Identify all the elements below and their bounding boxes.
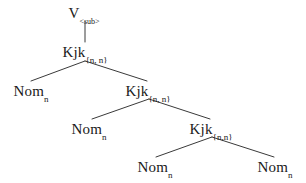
tree-node-nom-6: Nomn bbox=[137, 160, 172, 178]
node-label: Kjk bbox=[62, 44, 85, 60]
tree-edge-left-branch bbox=[31, 61, 85, 81]
tree-node-nom-4: Nomn bbox=[71, 122, 106, 140]
tree-edge-left-branch bbox=[156, 137, 212, 157]
node-subscript: {n,n} bbox=[213, 132, 233, 142]
node-label: Kjk bbox=[125, 83, 148, 99]
tree-node-kjk-3: Kjk{n, n} bbox=[125, 84, 170, 102]
node-label: Nom bbox=[257, 159, 288, 175]
node-label: Kjk bbox=[190, 121, 213, 137]
node-subscript: <sub> bbox=[79, 17, 99, 26]
tree-node-kjk-5: Kjk{n,n} bbox=[190, 122, 233, 140]
tree-node-v-0: V<sub> bbox=[68, 6, 99, 24]
node-subscript: n bbox=[168, 170, 173, 180]
node-label: Nom bbox=[13, 83, 44, 99]
tree-edge-left-branch bbox=[92, 99, 149, 119]
node-subscript: n bbox=[102, 132, 107, 142]
node-label: V bbox=[68, 5, 79, 21]
node-subscript: {n, n} bbox=[148, 94, 170, 104]
tree-node-nom-2: Nomn bbox=[13, 84, 48, 102]
node-subscript: {n, n} bbox=[85, 55, 107, 65]
node-label: Nom bbox=[137, 159, 168, 175]
node-subscript: n bbox=[288, 170, 293, 180]
tree-node-nom-7: Nomn bbox=[257, 160, 292, 178]
node-subscript: n bbox=[44, 94, 49, 104]
node-label: Nom bbox=[71, 121, 102, 137]
tree-node-kjk-1: Kjk{n, n} bbox=[62, 45, 107, 63]
tree-diagram-canvas: V<sub>Kjk{n, n}NomnKjk{n, n}NomnKjk{n,n}… bbox=[0, 0, 306, 183]
